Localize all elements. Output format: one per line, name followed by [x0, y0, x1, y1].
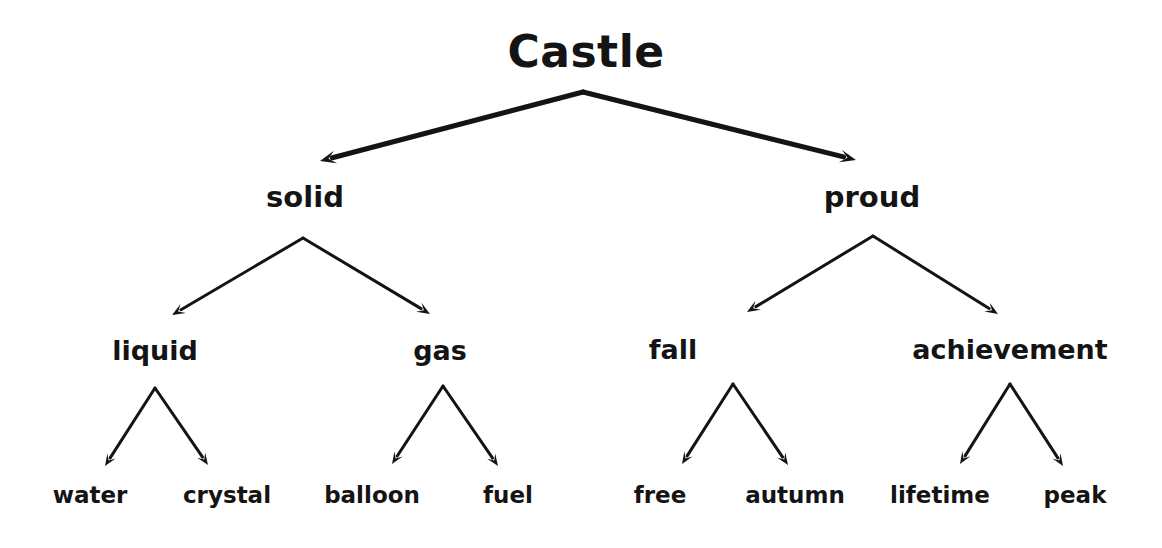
edge-achievement-to-peak: [1010, 384, 1063, 466]
node-achievement: achievement: [912, 336, 1108, 363]
node-lifetime: lifetime: [890, 484, 990, 507]
node-fuel: fuel: [483, 484, 533, 507]
node-free: free: [634, 484, 687, 507]
arrow-layer: [0, 0, 1162, 548]
node-gas: gas: [413, 337, 467, 364]
edge-proud-to-achievement: [873, 236, 998, 314]
node-proud: proud: [824, 183, 920, 212]
node-crystal: crystal: [183, 484, 271, 507]
edge-solid-to-gas: [303, 238, 430, 314]
node-peak: peak: [1044, 484, 1107, 507]
arrowhead-icon: [777, 452, 788, 465]
edge-solid-to-liquid: [172, 238, 303, 315]
edge-root-to-proud: [583, 92, 856, 162]
tree-diagram-canvas: Castle solid proud liquid gas fall achie…: [0, 0, 1162, 548]
node-autumn: autumn: [745, 484, 845, 507]
edge-liquid-to-water: [105, 388, 155, 466]
node-root: Castle: [507, 30, 664, 74]
edge-gas-to-balloon: [392, 386, 443, 464]
node-fall: fall: [649, 336, 697, 363]
node-liquid: liquid: [112, 337, 198, 364]
edge-gas-to-fuel: [443, 386, 498, 466]
node-balloon: balloon: [324, 484, 420, 507]
edge-proud-to-fall: [747, 236, 873, 312]
edge-fall-to-free: [682, 384, 733, 464]
edge-liquid-to-crystal: [155, 388, 208, 465]
node-water: water: [53, 484, 128, 507]
edge-fall-to-autumn: [733, 384, 788, 465]
node-solid: solid: [266, 183, 344, 212]
edge-root-to-solid: [320, 92, 583, 163]
edge-achievement-to-lifetime: [960, 384, 1010, 464]
